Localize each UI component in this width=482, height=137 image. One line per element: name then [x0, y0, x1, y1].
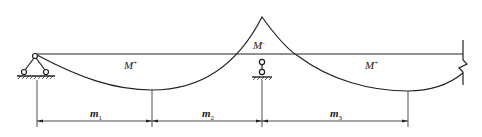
- arrowhead: [402, 120, 408, 123]
- dimension-label-m2: m2: [202, 107, 215, 122]
- pin-support-icon: [17, 54, 55, 80]
- moment-label-middle: M-: [252, 39, 265, 51]
- dimension-label-m3: m3: [330, 107, 343, 122]
- arrowhead: [146, 120, 152, 123]
- dimension-label-m1: m1: [90, 107, 103, 122]
- arrowhead: [37, 120, 43, 123]
- break-end-icon: [459, 40, 467, 85]
- arrowhead: [152, 120, 158, 123]
- moment-diagram: M+ M- M+ m1 m2 m3: [0, 0, 482, 137]
- roller-support-icon: [252, 59, 272, 80]
- arrowhead: [262, 120, 268, 123]
- moment-label-right: M+: [364, 59, 378, 71]
- arrowhead: [256, 120, 262, 123]
- moment-label-left: M+: [123, 59, 137, 71]
